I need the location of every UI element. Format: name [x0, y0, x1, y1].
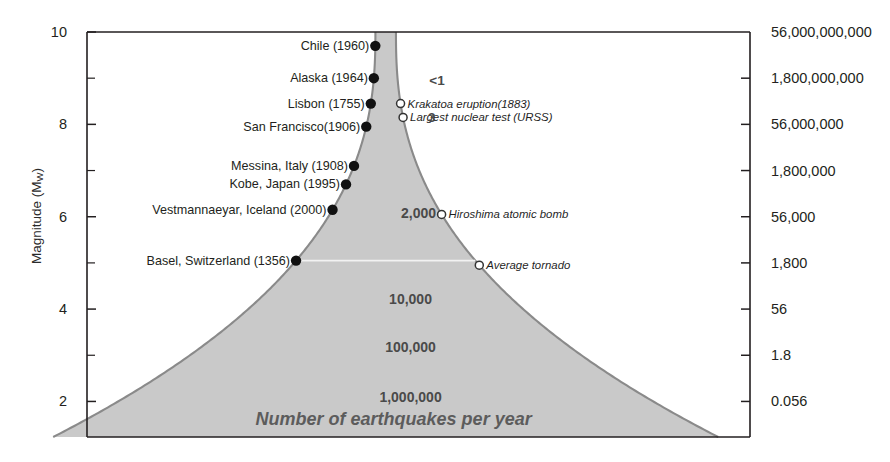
- earthquake-frequency-funnel-fill: [53, 32, 718, 437]
- energy-event-label: Average tornado: [486, 259, 570, 271]
- earthquake-marker-dot: [341, 179, 351, 189]
- frequency-count-label: 3: [428, 110, 436, 125]
- earthquake-label: Basel, Switzerland (1356): [0, 254, 290, 268]
- y-axis-right-tick-label-3: 1,800,000: [771, 163, 836, 179]
- earthquake-marker-dot: [370, 41, 380, 51]
- y-axis-right-tick-label-2: 56,000,000: [771, 116, 844, 132]
- frequency-count-label: 1,000,000: [379, 389, 441, 405]
- frequency-count-label: <1: [429, 73, 444, 88]
- chart-caption: Number of earthquakes per year: [256, 408, 532, 429]
- earthquake-label: Messina, Italy (1908): [0, 159, 348, 173]
- y-axis-right-tick-label-4: 56,000: [771, 209, 815, 225]
- earthquake-label: Lisbon (1755): [0, 97, 365, 111]
- plot-area: [0, 0, 890, 462]
- y-axis-right-tick-label-6: 56: [771, 301, 787, 317]
- earthquake-label: Vestmannaeyar, Iceland (2000): [0, 203, 327, 217]
- energy-event-label: Hiroshima atomic bomb: [449, 208, 569, 220]
- earthquake-marker-dot: [366, 98, 376, 108]
- energy-event-marker-circle: [438, 210, 446, 218]
- frequency-count-label: 2,000: [401, 205, 436, 221]
- earthquake-label: Alaska (1964): [0, 71, 368, 85]
- y-axis-right-tick-label-1: 1,800,000,000: [771, 70, 864, 86]
- y-axis-right-tick-label-5: 1,800: [771, 255, 807, 271]
- earthquake-label: Kobe, Japan (1995): [0, 177, 340, 191]
- frequency-count-label: 10,000: [389, 291, 432, 307]
- y-axis-right-tick-label-0: 56,000,000,000: [771, 24, 872, 40]
- y-axis-right-tick-label-7: 1.8: [771, 347, 791, 363]
- earthquake-marker-dot: [327, 205, 337, 215]
- energy-event-label: Krakatoa eruption(1883): [408, 98, 531, 110]
- earthquake-label: Chile (1960): [0, 39, 369, 53]
- y-axis-left-tick-label-2: 2: [59, 393, 67, 409]
- earthquake-marker-dot: [361, 121, 371, 131]
- y-axis-left-tick-label-4: 4: [59, 301, 67, 317]
- earthquake-marker-dot: [349, 161, 359, 171]
- y-axis-right-tick-label-8: 0.056: [771, 393, 807, 409]
- y-axis-left-tick-label-10: 10: [51, 24, 67, 40]
- earthquake-label: San Francisco(1906): [0, 120, 360, 134]
- energy-event-marker-circle: [399, 113, 407, 121]
- earthquake-marker-dot: [291, 255, 301, 265]
- earthquake-magnitude-frequency-chart: Magnitude (MW) Energy in tons of TNT 108…: [0, 0, 890, 462]
- energy-event-marker-circle: [397, 100, 405, 108]
- frequency-count-label: 100,000: [385, 339, 436, 355]
- energy-event-marker-circle: [475, 261, 483, 269]
- earthquake-marker-dot: [369, 73, 379, 83]
